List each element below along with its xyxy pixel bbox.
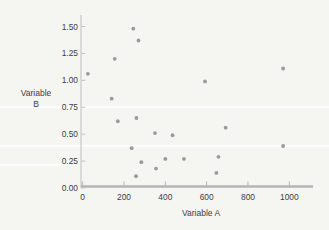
y-tick-label: 1.00 — [62, 75, 79, 85]
x-tick-label: 200 — [117, 192, 131, 202]
data-point — [281, 67, 285, 71]
x-tick-label: 800 — [241, 192, 255, 202]
x-tick-label: 400 — [158, 192, 172, 202]
data-point — [281, 144, 285, 148]
data-point — [171, 133, 175, 137]
y-axis-title: Variable B — [17, 88, 55, 110]
y-tick-label: 1.50 — [62, 22, 79, 32]
x-tick-label: 1000 — [280, 192, 299, 202]
data-point — [153, 131, 157, 135]
data-point — [163, 157, 167, 161]
x-tick-label: 0 — [80, 192, 85, 202]
data-point — [139, 160, 143, 164]
y-tick-label: 0.25 — [62, 156, 79, 166]
data-point — [131, 27, 135, 31]
data-point — [182, 157, 186, 161]
data-point — [86, 72, 90, 76]
data-point — [224, 126, 228, 130]
data-point — [137, 39, 141, 43]
y-tick-label: 0.50 — [62, 129, 79, 139]
data-point — [217, 155, 221, 159]
data-point — [130, 146, 134, 150]
x-tick-label: 600 — [200, 192, 214, 202]
data-point — [134, 174, 138, 178]
scatter-canvas: 020040060080010000.000.250.500.751.001.2… — [0, 0, 329, 230]
figure-background: 020040060080010000.000.250.500.751.001.2… — [0, 0, 329, 230]
scatter-figure: 020040060080010000.000.250.500.751.001.2… — [0, 0, 329, 230]
y-tick-label: 0.75 — [62, 102, 79, 112]
data-point — [113, 57, 117, 61]
data-point — [203, 80, 207, 84]
y-tick-label: 0.00 — [62, 183, 79, 193]
data-point — [116, 119, 120, 123]
data-point — [154, 167, 158, 171]
x-axis-title: Variable A — [160, 208, 242, 219]
y-tick-label: 1.25 — [62, 48, 79, 58]
data-point — [135, 116, 139, 120]
data-point — [110, 97, 114, 101]
data-point — [214, 171, 218, 175]
